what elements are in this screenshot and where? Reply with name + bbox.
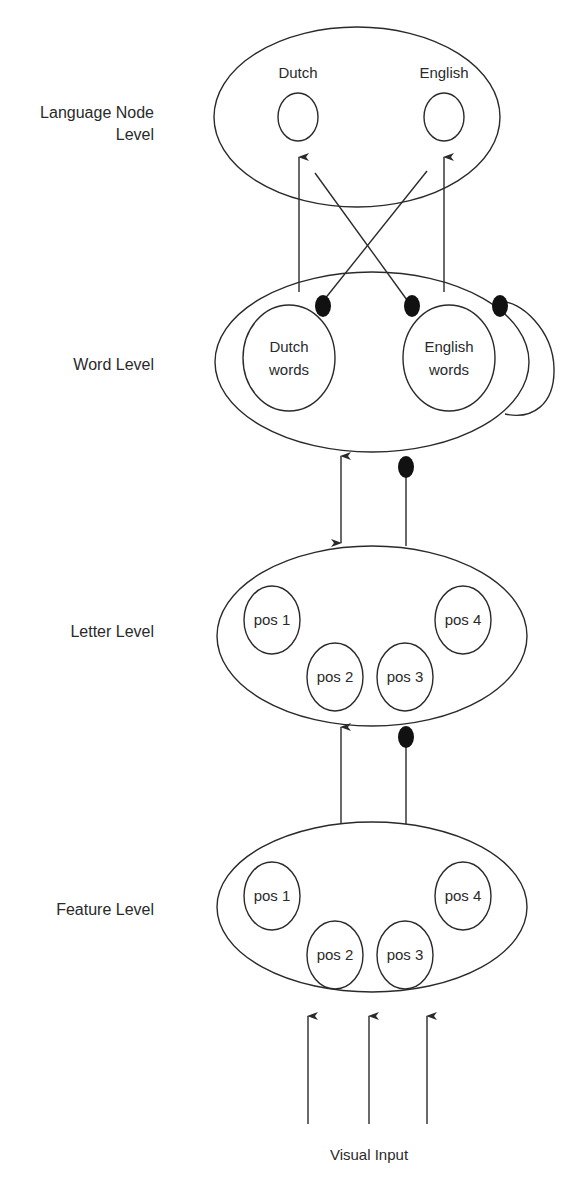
dutch-node-inhibits-english-words: [315, 173, 407, 300]
english-node-inhibits-dutch-words: [324, 171, 427, 300]
inhibitory-dot-self-loop: [492, 295, 508, 317]
iac-model-diagram: Dutch English Dutch words English words …: [0, 0, 569, 1192]
dutch-words-line1: Dutch: [269, 338, 308, 355]
english-language-label: English: [419, 64, 468, 81]
visual-input-label: Visual Input: [330, 1146, 409, 1163]
feature-pos-1-label: pos 1: [254, 887, 291, 904]
dutch-words-node: [243, 305, 335, 411]
feature-pos-2-label: pos 2: [317, 946, 354, 963]
language-level-ellipse: [214, 27, 500, 207]
inhibitory-dot-dutch-words: [315, 295, 331, 317]
letter-pos-4-label: pos 4: [445, 611, 482, 628]
letter-level-ellipse: [217, 546, 527, 726]
feature-level-ellipse: [217, 822, 527, 992]
letter-pos-1-label: pos 1: [254, 611, 291, 628]
dutch-language-label: Dutch: [278, 64, 317, 81]
feature-pos-3-label: pos 3: [387, 946, 424, 963]
english-language-node: [424, 93, 464, 141]
inhibitory-dot-letter-level: [398, 726, 414, 748]
english-words-line1: English: [424, 338, 473, 355]
english-words-line2: words: [428, 361, 469, 378]
dutch-words-line2: words: [268, 361, 309, 378]
dutch-language-node: [278, 93, 318, 141]
word-level-ellipse: [215, 272, 529, 452]
english-words-node: [403, 305, 495, 411]
inhibitory-dot-english-words: [404, 295, 420, 317]
letter-pos-2-label: pos 2: [317, 668, 354, 685]
letter-pos-3-label: pos 3: [387, 668, 424, 685]
inhibitory-dot-word-level: [398, 456, 414, 478]
feature-pos-4-label: pos 4: [445, 887, 482, 904]
